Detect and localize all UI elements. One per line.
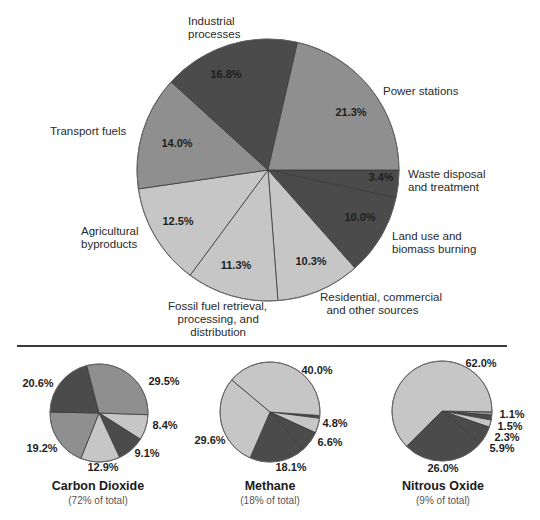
label-fossil-fuel: Fossil fuel retrieval, processing, and d… [168,300,267,339]
n2o-pct-62-0: 62.0% [465,357,496,369]
label-industrial-processes: Industrial processes [188,15,240,41]
ch4-pct-6-6: 6.6% [317,436,342,448]
co2-pct-20-6: 20.6% [22,377,53,389]
label-waste-disposal: Waste disposal and treatment [408,168,486,194]
pct-waste: 3.4% [368,171,393,183]
pct-power: 21.3% [335,106,366,118]
n2o-pct-5-9: 5.9% [489,442,514,454]
co2-title: Carbon Dioxide [8,479,188,493]
pct-transport: 14.0% [161,137,192,149]
label-residential: Residential, commercial and other source… [320,291,442,317]
co2-share-note: (72% of total) [8,495,188,506]
label-agricultural: Agricultural byproducts [81,225,139,251]
ch4-share-note: (18% of total) [180,495,360,506]
n2o-pct-26-0: 26.0% [427,462,458,474]
pie-3 [392,361,492,461]
pie-2 [220,362,320,462]
co2-pct-9-1: 9.1% [134,447,159,459]
label-transport-fuels: Transport fuels [50,125,126,138]
ch4-pct-29-6: 29.6% [194,434,225,446]
co2-pct-19-2: 19.2% [26,442,57,454]
n2o-title: Nitrous Oxide [353,479,533,493]
pct-fossil: 11.3% [221,259,252,271]
ch4-pct-40-0: 40.0% [301,364,332,376]
pie-0 [137,39,399,301]
co2-pct-8-4: 8.4% [152,419,177,431]
section-divider [17,345,507,347]
ch4-pct-4-8: 4.8% [322,417,347,429]
pct-industrial: 16.8% [210,68,241,80]
label-power-stations: Power stations [383,85,458,98]
n2o-pct-1-1: 1.1% [499,408,524,420]
pie-1 [50,364,148,462]
pct-land: 10.0% [344,211,375,223]
n2o-share-note: (9% of total) [353,495,533,506]
label-land-use: Land use and biomass burning [392,230,476,256]
ch4-title: Methane [180,479,360,493]
co2-pct-12-9: 12.9% [87,461,118,473]
pie-charts-canvas [0,0,540,520]
pct-residential: 10.3% [295,255,326,267]
ch4-pct-18-1: 18.1% [275,461,306,473]
co2-pct-29-5: 29.5% [148,375,179,387]
pct-agricultural: 12.5% [162,215,193,227]
